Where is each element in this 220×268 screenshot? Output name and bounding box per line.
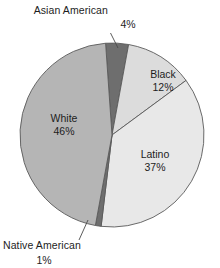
slice-value-white: 46% bbox=[53, 125, 74, 137]
slice-value-asian-american: 4% bbox=[120, 18, 135, 30]
slice-value-native-american: 1% bbox=[36, 254, 51, 266]
slice-label-native-american: Native American bbox=[3, 239, 81, 251]
pie-chart: Asian American 4% Black 12% Latino 37% W… bbox=[0, 0, 220, 268]
slice-label-white: White bbox=[51, 112, 78, 124]
slice-label-black: Black bbox=[150, 68, 176, 80]
pie-chart-svg: Asian American 4% Black 12% Latino 37% W… bbox=[0, 0, 220, 268]
slice-label-asian-american: Asian American bbox=[34, 4, 108, 16]
slice-label-latino: Latino bbox=[141, 148, 170, 160]
slice-value-latino: 37% bbox=[144, 161, 165, 173]
slice-value-black: 12% bbox=[152, 81, 173, 93]
